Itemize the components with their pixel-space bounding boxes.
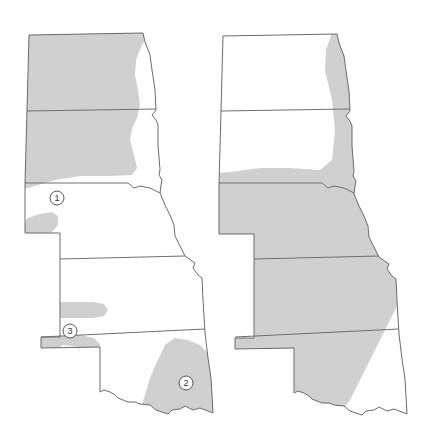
right-map-shading xyxy=(200,30,420,420)
left-map-shading xyxy=(20,30,216,420)
marker-1: 1 xyxy=(50,191,64,205)
right-map xyxy=(200,30,420,420)
left-border-ne-ks xyxy=(60,256,185,259)
shade-west-kansas xyxy=(58,302,108,318)
left-border-sd-ne xyxy=(25,183,160,193)
svg-text:2: 2 xyxy=(183,378,188,388)
shade-sw-nebraska xyxy=(20,212,58,236)
marker-3: 3 xyxy=(63,324,77,338)
svg-text:1: 1 xyxy=(54,193,59,203)
left-map: 1 2 3 xyxy=(20,30,216,420)
shade-right-main xyxy=(200,30,420,420)
svg-text:3: 3 xyxy=(67,326,72,336)
maps-figure: 1 2 3 xyxy=(0,0,437,446)
marker-2: 2 xyxy=(179,376,193,390)
right-border-nd-sd xyxy=(221,109,350,111)
shade-se-oklahoma xyxy=(140,338,216,420)
